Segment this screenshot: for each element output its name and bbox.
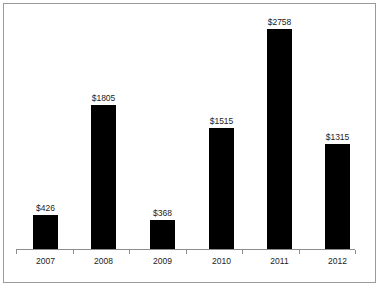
axis-tick (73, 250, 74, 254)
axis-tick (355, 250, 356, 254)
category-label-2011: 2011 (255, 256, 305, 267)
axis-tick (129, 250, 130, 254)
bar-value-label-2010: $1515 (197, 116, 247, 126)
bar-value-label-2009: $368 (138, 208, 188, 218)
bar-value-label-2007: $426 (21, 203, 71, 213)
category-label-2008: 2008 (79, 256, 129, 267)
category-label-2010: 2010 (197, 256, 247, 267)
axis-tick (242, 250, 243, 254)
bar-2011 (267, 29, 292, 249)
bar-2007 (33, 215, 58, 249)
axis-tick (16, 250, 17, 254)
category-label-2007: 2007 (21, 256, 71, 267)
bar-chart-figure: $426 $1805 $368 $1515 $2758 $1315 2007 2… (0, 0, 380, 287)
plot-area: $426 $1805 $368 $1515 $2758 $1315 2007 2… (0, 0, 380, 287)
bar-value-label-2008: $1805 (79, 93, 129, 103)
bar-2009 (150, 220, 175, 249)
bar-value-label-2011: $2758 (255, 17, 305, 27)
bar-2012 (325, 144, 350, 249)
category-label-2012: 2012 (313, 256, 363, 267)
bar-2010 (209, 128, 234, 249)
axis-tick (186, 250, 187, 254)
category-label-2009: 2009 (138, 256, 188, 267)
bar-2008 (91, 105, 116, 249)
bar-value-label-2012: $1315 (313, 132, 363, 142)
axis-tick (299, 250, 300, 254)
